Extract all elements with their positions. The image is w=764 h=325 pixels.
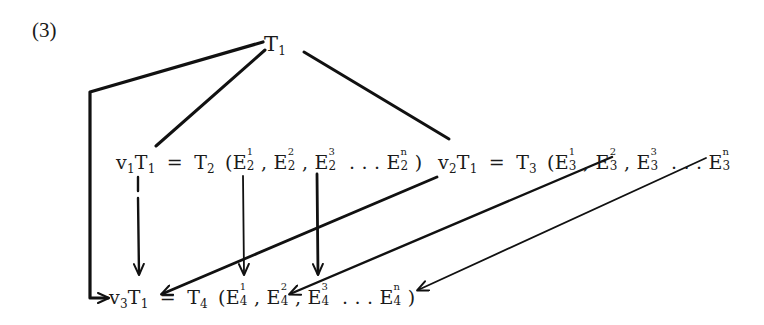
- edge-t1-to-v1t1: [156, 50, 265, 146]
- edge-v1t1-to-v3t1: [138, 177, 139, 274]
- v3-sub: 3: [120, 297, 128, 311]
- e31-sup: 1: [569, 147, 576, 157]
- e22-sub: 2: [288, 160, 296, 172]
- e42-sup: 2: [281, 282, 288, 292]
- sep: ,: [295, 286, 301, 308]
- node-v2t1-equation: v2T1 = T3 (E13, E23, E33 . . . En3: [438, 150, 737, 175]
- e3n-sup: n: [722, 147, 729, 157]
- e3n-sub: 3: [722, 160, 730, 172]
- op-base: T: [128, 286, 141, 308]
- equals-sign: =: [167, 151, 183, 173]
- e42-base: E: [267, 286, 281, 308]
- figure-number: (3): [32, 20, 57, 41]
- v1-sub: 1: [127, 162, 135, 176]
- edge-v2t1-to-v3t1: [162, 177, 437, 294]
- e33-base: E: [636, 151, 650, 173]
- e21-sub: 2: [247, 160, 255, 172]
- ellipsis: . . .: [671, 151, 702, 173]
- ellipsis: . . .: [349, 151, 380, 173]
- close-paren: ): [415, 151, 423, 173]
- op-base: T: [135, 151, 148, 173]
- e21-base: E: [233, 151, 247, 173]
- t4-sub: 4: [200, 297, 208, 311]
- edge-t1-to-v2t1: [304, 52, 449, 139]
- e42-sub: 4: [281, 295, 289, 307]
- op-sub: 1: [470, 162, 478, 176]
- t1-sub: 1: [278, 44, 286, 58]
- e32-base: E: [596, 151, 610, 173]
- edge-e23-to-e4: [317, 174, 318, 274]
- open-paren: (: [547, 151, 555, 173]
- equals-sign: =: [489, 151, 505, 173]
- t2-sub: 2: [207, 162, 215, 176]
- open-paren: (: [225, 151, 233, 173]
- e23-base: E: [314, 151, 328, 173]
- e22-sup: 2: [288, 147, 295, 157]
- sep: ,: [261, 151, 267, 173]
- sep: ,: [624, 151, 630, 173]
- e3n-base: E: [708, 151, 722, 173]
- ellipsis: . . .: [342, 286, 373, 308]
- e33-sub: 3: [650, 160, 658, 172]
- t2-base: T: [194, 151, 207, 173]
- e32-sub: 3: [610, 160, 618, 172]
- sep: ,: [302, 151, 308, 173]
- t3-base: T: [516, 151, 529, 173]
- edge-e32-to-e42: [290, 157, 612, 294]
- v2-base: v: [438, 151, 449, 173]
- e2n-sup: n: [400, 147, 407, 157]
- v1-base: v: [116, 151, 127, 173]
- e41-sub: 4: [240, 295, 248, 307]
- open-paren: (: [218, 286, 226, 308]
- e23-sup: 3: [328, 147, 335, 157]
- e4n-sup: n: [393, 282, 400, 292]
- e21-sup: 1: [247, 147, 254, 157]
- e23-sub: 2: [328, 160, 336, 172]
- t1-base: T: [264, 32, 278, 56]
- op-sub: 1: [148, 162, 156, 176]
- equals-sign: =: [160, 286, 176, 308]
- v2-sub: 2: [449, 162, 457, 176]
- e4n-base: E: [379, 286, 393, 308]
- e41-sup: 1: [240, 282, 247, 292]
- e43-sup: 3: [321, 282, 328, 292]
- close-paren: ): [408, 286, 416, 308]
- v3-base: v: [109, 286, 120, 308]
- e22-base: E: [274, 151, 288, 173]
- e43-base: E: [307, 286, 321, 308]
- t4-base: T: [187, 286, 200, 308]
- t3-sub: 3: [529, 162, 537, 176]
- op-sub: 1: [141, 297, 149, 311]
- e33-sup: 3: [650, 147, 657, 157]
- node-t1: T1: [264, 34, 286, 57]
- e31-base: E: [555, 151, 569, 173]
- e2n-base: E: [386, 151, 400, 173]
- e43-sub: 4: [321, 295, 329, 307]
- e31-sub: 3: [569, 160, 577, 172]
- e2n-sub: 2: [400, 160, 408, 172]
- e41-base: E: [226, 286, 240, 308]
- e4n-sub: 4: [393, 295, 401, 307]
- sep: ,: [583, 151, 589, 173]
- op-base: T: [457, 151, 470, 173]
- e32-sup: 2: [610, 147, 617, 157]
- node-v1t1-equation: v1T1 = T2 (E12, E22, E32 . . . En2): [116, 150, 422, 175]
- sep: ,: [254, 286, 260, 308]
- node-v3t1-equation: v3T1 = T4 (E14, E24, E34 . . . En4): [109, 285, 415, 310]
- transformation-diagram: (3) T1 v1T1 = T2 (E12, E22, E32 . . . En…: [0, 0, 764, 325]
